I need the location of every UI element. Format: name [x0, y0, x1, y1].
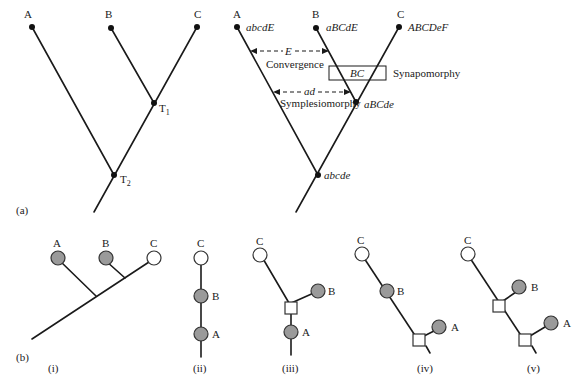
- taxon-label: C: [357, 234, 364, 246]
- subpanel-caption: (iii): [282, 362, 299, 375]
- synapomorphy-label: Synapomorphy: [393, 67, 461, 79]
- panel-a-label: (a): [16, 204, 29, 217]
- taxon-label: C: [256, 235, 263, 247]
- taxon-label: B: [328, 285, 335, 297]
- subpanel-i: A B C (i): [32, 237, 161, 375]
- taxon-label: A: [563, 317, 571, 329]
- internal-node-square: [493, 300, 505, 312]
- subpanel-iv: C B A (iv): [355, 234, 459, 375]
- node-root: [315, 172, 321, 178]
- internal-node-square: [285, 302, 297, 314]
- taxon-c-ancestral: [194, 251, 208, 265]
- taxon-b-label-right: B: [312, 8, 319, 20]
- taxon-c-ancestral: [147, 251, 161, 265]
- state-bc-node: aBCde: [364, 98, 394, 110]
- subpanel-caption: (v): [527, 362, 540, 375]
- state-a: abcdE: [246, 21, 274, 33]
- taxon-b-derived: [99, 251, 113, 265]
- taxon-label: A: [451, 321, 459, 333]
- taxon-c-dot: [194, 24, 200, 30]
- taxon-a-derived: [194, 327, 208, 341]
- node-t2: [111, 172, 117, 178]
- symplesiomorphy-char: ad: [304, 85, 316, 97]
- internal-node-square: [413, 334, 425, 346]
- taxon-c-ancestral: [355, 247, 369, 261]
- taxon-label: A: [212, 328, 220, 340]
- symplesiomorphy-label: Symplesiomorphy: [280, 97, 361, 109]
- taxon-b-dot-right: [313, 25, 319, 31]
- subpanel-caption: (ii): [193, 362, 207, 375]
- taxon-c-label-right: C: [397, 8, 404, 20]
- taxon-label: C: [464, 234, 471, 246]
- taxon-b-derived: [380, 284, 394, 298]
- tree-a-right: A B C abcdE aBCdE ABCDeF aBCde abcde E C…: [233, 8, 461, 212]
- state-c: ABCDeF: [407, 21, 449, 33]
- convergence-char: E: [284, 45, 292, 57]
- taxon-c-dot-right: [396, 24, 402, 30]
- taxon-a-label: A: [24, 8, 32, 20]
- taxon-a-dot: [29, 24, 35, 30]
- taxon-label: A: [302, 326, 310, 338]
- taxon-b-derived: [311, 284, 325, 298]
- state-b: aBCdE: [326, 21, 358, 33]
- taxon-a-derived: [432, 320, 446, 334]
- node-t1-label: T1: [159, 102, 170, 117]
- state-root: abcde: [324, 169, 350, 181]
- subpanel-ii: C B A (ii): [193, 237, 220, 375]
- synapomorphy-char: BC: [350, 67, 365, 79]
- subpanel-caption: (iv): [417, 362, 433, 375]
- taxon-b-dot: [108, 25, 114, 31]
- taxon-c-ancestral: [461, 247, 475, 261]
- taxon-a-derived: [544, 316, 558, 330]
- taxon-label: B: [531, 281, 538, 293]
- taxon-label: A: [53, 237, 61, 249]
- taxon-a-dot-right: [234, 24, 240, 30]
- taxon-a-derived: [284, 325, 298, 339]
- convergence-label: Convergence: [266, 58, 324, 70]
- subpanel-v: C B A (v): [461, 234, 571, 375]
- taxon-b-derived: [194, 289, 208, 303]
- taxon-label: C: [197, 237, 204, 249]
- taxon-label: C: [150, 237, 157, 249]
- panel-b-label: (b): [16, 351, 29, 364]
- internal-node-square: [519, 334, 531, 346]
- node-t2-label: T2: [120, 173, 131, 188]
- taxon-b-derived: [512, 280, 526, 294]
- taxon-label: B: [212, 290, 219, 302]
- tree-a-left: A B C T1 T2: [24, 8, 201, 212]
- taxon-label: B: [102, 237, 109, 249]
- taxon-a-derived: [51, 251, 65, 265]
- cladogram-figure: A B C T1 T2 (a) A B C abcdE aBCdE ABCDeF…: [0, 0, 582, 385]
- taxon-c-label: C: [194, 8, 201, 20]
- taxon-a-label-right: A: [233, 8, 241, 20]
- taxon-c-ancestral: [253, 248, 267, 262]
- taxon-b-label: B: [105, 8, 112, 20]
- taxon-label: B: [397, 285, 404, 297]
- node-t1: [151, 100, 157, 106]
- subpanel-caption: (i): [48, 362, 59, 375]
- subpanel-iii: C B (iii) A (iii): [253, 235, 335, 375]
